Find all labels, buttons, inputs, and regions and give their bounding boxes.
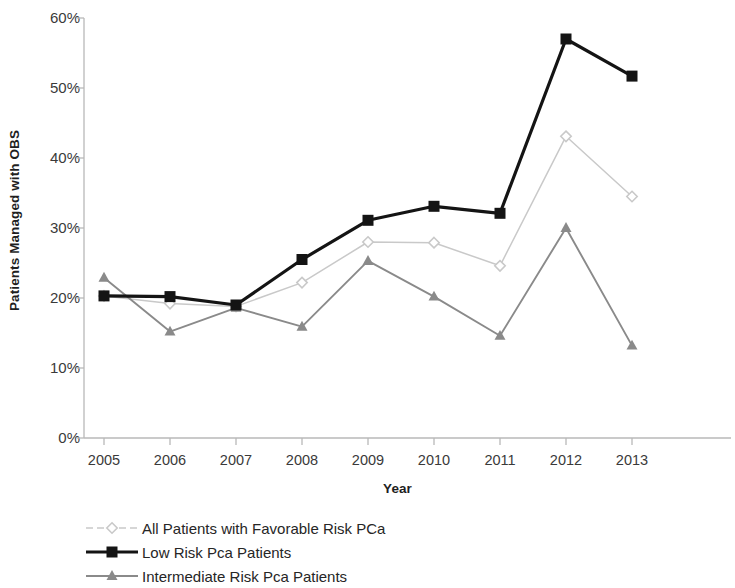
- triangle-marker: [429, 291, 440, 301]
- legend-label: Low Risk Pca Patients: [142, 544, 291, 561]
- series-line: [104, 39, 632, 305]
- square-marker: [165, 291, 176, 302]
- series-square: [99, 34, 638, 311]
- triangle-marker: [99, 272, 110, 282]
- diamond-marker: [297, 277, 307, 287]
- diamond-marker: [429, 238, 439, 248]
- diamond-marker: [363, 237, 373, 247]
- diamond-marker: [107, 523, 117, 533]
- legend-key-glyph: [84, 567, 142, 585]
- line-chart-figure: Patients Managed with OBS 0%10%20%30%40%…: [0, 0, 735, 588]
- triangle-marker: [363, 255, 374, 265]
- triangle-marker: [495, 330, 506, 340]
- square-marker: [627, 71, 638, 82]
- legend-marker-diamond-marker: [84, 519, 142, 537]
- x-axis-title: Year: [0, 481, 735, 496]
- triangle-marker: [627, 340, 638, 350]
- triangle-marker: [561, 222, 572, 232]
- legend-key-glyph: [84, 519, 142, 537]
- legend-marker-triangle-marker: [84, 567, 142, 585]
- square-marker: [99, 290, 110, 301]
- square-marker: [561, 34, 572, 45]
- square-marker: [231, 300, 242, 311]
- square-marker: [107, 547, 118, 558]
- square-marker: [363, 215, 374, 226]
- x-axis-title-text: Year: [323, 481, 412, 496]
- square-marker: [429, 201, 440, 212]
- axis-lines: [77, 18, 731, 445]
- triangle-marker: [107, 570, 118, 580]
- legend-item: Low Risk Pca Patients: [84, 540, 604, 564]
- square-marker: [297, 254, 308, 265]
- legend-label: Intermediate Risk Pca Patients: [142, 568, 347, 585]
- chart-legend: All Patients with Favorable Risk PCaLow …: [84, 516, 604, 588]
- legend-key-glyph: [84, 543, 142, 561]
- plot-area: [0, 0, 735, 500]
- diamond-marker: [495, 261, 505, 271]
- legend-label: All Patients with Favorable Risk PCa: [142, 520, 385, 537]
- legend-item: Intermediate Risk Pca Patients: [84, 564, 604, 588]
- legend-item: All Patients with Favorable Risk PCa: [84, 516, 604, 540]
- legend-marker-square-marker: [84, 543, 142, 561]
- square-marker: [495, 208, 506, 219]
